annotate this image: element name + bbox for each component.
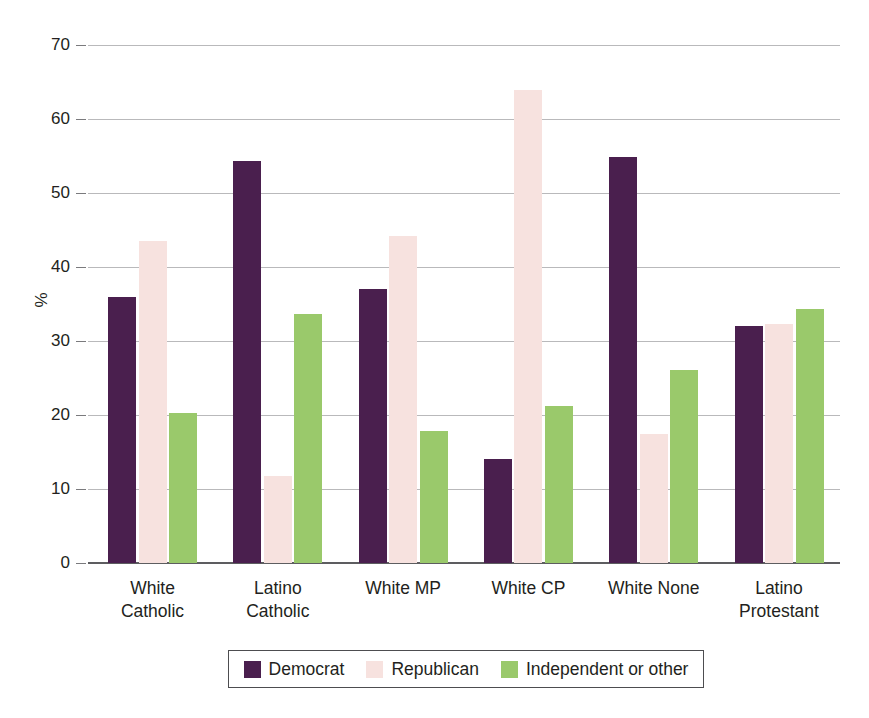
bar xyxy=(108,297,136,563)
y-axis-tick-mark xyxy=(76,489,86,490)
bar xyxy=(735,326,763,563)
y-axis-tick-label: 0 xyxy=(24,554,70,571)
bar xyxy=(233,161,261,563)
legend-label: Democrat xyxy=(269,659,345,680)
plot-area xyxy=(88,45,840,563)
x-axis-category-label: White CP xyxy=(458,577,598,600)
legend-entry: Democrat xyxy=(233,659,356,680)
x-axis-category-label: Latino Catholic xyxy=(208,577,348,624)
y-axis-tick-mark xyxy=(76,267,86,268)
bar xyxy=(514,90,542,563)
y-axis-tick-label: 20 xyxy=(24,406,70,423)
bar xyxy=(420,431,448,563)
y-axis-tick-label: 30 xyxy=(24,332,70,349)
gridline xyxy=(88,415,840,416)
bar xyxy=(139,241,167,563)
y-axis-tick-label: 60 xyxy=(24,110,70,127)
bar xyxy=(796,309,824,563)
y-axis-tick-label: 40 xyxy=(24,258,70,275)
bar xyxy=(640,434,668,564)
y-axis-tick-label: 50 xyxy=(24,184,70,201)
bar xyxy=(169,413,197,563)
y-axis-tick-label: 70 xyxy=(24,36,70,53)
bar xyxy=(264,476,292,563)
bar xyxy=(484,459,512,563)
y-axis-tick-mark xyxy=(76,45,86,46)
legend-swatch-icon xyxy=(501,661,518,678)
gridline xyxy=(88,193,840,194)
gridline xyxy=(88,119,840,120)
x-axis-category-label: White Catholic xyxy=(83,577,223,624)
y-axis-tick-label: 10 xyxy=(24,480,70,497)
bar xyxy=(765,324,793,563)
y-axis-label: % xyxy=(32,280,52,320)
bar xyxy=(670,370,698,563)
gridline xyxy=(88,267,840,268)
gridline xyxy=(88,341,840,342)
bar-chart: % 706050403020100 White CatholicLatino C… xyxy=(0,0,869,718)
legend-swatch-icon xyxy=(366,661,383,678)
y-axis-tick-mark xyxy=(76,341,86,342)
y-axis-tick-mark xyxy=(76,415,86,416)
x-axis-category-label: White MP xyxy=(333,577,473,600)
x-axis-category-label: Latino Protestant xyxy=(709,577,849,624)
y-axis-tick-mark xyxy=(76,119,86,120)
legend-entry: Independent or other xyxy=(490,659,700,680)
gridline xyxy=(88,45,840,46)
x-axis-line xyxy=(88,562,840,564)
bar xyxy=(359,289,387,563)
legend-entry: Republican xyxy=(355,659,490,680)
legend-label: Republican xyxy=(391,659,479,680)
bar xyxy=(609,157,637,563)
legend-label: Independent or other xyxy=(526,659,689,680)
y-axis-tick-mark xyxy=(76,563,86,564)
gridline xyxy=(88,489,840,490)
y-axis-tick-mark xyxy=(76,193,86,194)
chart-legend: DemocratRepublicanIndependent or other xyxy=(228,650,704,688)
legend-swatch-icon xyxy=(244,661,261,678)
bar xyxy=(545,406,573,563)
bar xyxy=(294,314,322,563)
x-axis-category-label: White None xyxy=(584,577,724,600)
bar xyxy=(389,236,417,563)
